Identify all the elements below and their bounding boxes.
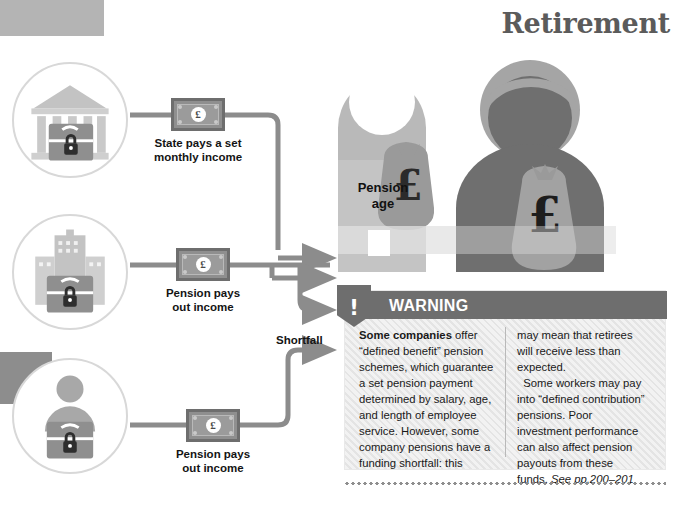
pound-symbol: £ — [206, 418, 221, 433]
source-icon-state-pension[interactable] — [12, 62, 128, 178]
label-company-pension: Pension pays out income — [138, 286, 268, 314]
pension-age-line2: age — [350, 196, 416, 212]
banknote-face: £ — [192, 415, 234, 436]
exclamation-warning-icon: ! — [337, 291, 371, 325]
label-line1: Pension pays — [138, 286, 268, 300]
label-state-pension: State pays a set monthly income — [133, 136, 263, 164]
pension-age-label: Pension age — [350, 180, 416, 213]
person-briefcase-lock-icon — [14, 360, 126, 472]
pound-symbol: £ — [191, 107, 206, 122]
banknote-personal: £ — [186, 409, 240, 442]
label-line1: State pays a set — [133, 136, 263, 150]
source-icon-company-pension[interactable] — [12, 214, 128, 330]
label-line2: monthly income — [133, 150, 263, 164]
label-personal-pension: Pension pays out income — [148, 447, 278, 475]
warning-column-right: may mean that retirees will receive less… — [505, 327, 655, 457]
warning-column-left: Some companies offer “defined benefit” p… — [355, 327, 505, 457]
pension-age-line1: Pension — [350, 180, 416, 196]
warning-body: Some companies offer “defined benefit” p… — [355, 327, 655, 457]
label-line2: out income — [148, 461, 278, 475]
shortfall-label: Shortfall — [276, 334, 323, 346]
arrow-shortfall — [300, 265, 330, 310]
arrow-to-warning — [240, 350, 330, 425]
banknote-company: £ — [176, 248, 230, 281]
warning-title: WARNING — [389, 297, 468, 315]
warning-box: ! WARNING Some companies offer “defined … — [344, 290, 666, 470]
office-building-briefcase-lock-icon — [14, 216, 126, 328]
label-line1: Pension pays — [148, 447, 278, 461]
source-icon-personal-pension[interactable] — [12, 358, 128, 474]
banknote-face: £ — [182, 254, 224, 275]
label-line2: out income — [138, 300, 268, 314]
government-building-lock-icon — [14, 64, 126, 176]
pound-symbol: £ — [196, 257, 211, 272]
banknote-face: £ — [177, 104, 219, 125]
banknote-state: £ — [171, 98, 225, 131]
bottom-dotted-rule — [344, 482, 666, 485]
infographic-canvas: £ £ Retirement Pension age — [0, 0, 678, 505]
